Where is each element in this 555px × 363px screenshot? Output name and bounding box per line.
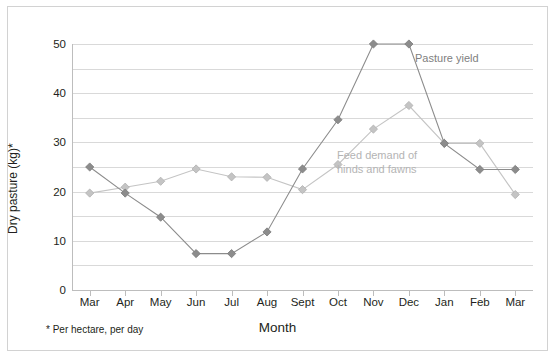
y-axis-tick-label: 30	[26, 136, 66, 148]
x-axis-tick-label: May	[150, 296, 172, 308]
y-axis-tick-label: 50	[26, 38, 66, 50]
series-lines	[72, 44, 533, 294]
data-point-marker	[298, 186, 306, 194]
x-axis-tick-label: Nov	[363, 296, 383, 308]
data-point-marker	[121, 189, 129, 197]
series-line-feed-demand	[90, 106, 516, 195]
data-point-marker	[263, 173, 271, 181]
y-axis-tick-label: 10	[26, 235, 66, 247]
footnote: * Per hectare, per day	[46, 324, 143, 335]
data-point-marker	[476, 139, 484, 147]
data-point-marker	[476, 165, 484, 173]
y-axis-tick-label: 40	[26, 87, 66, 99]
y-axis-tick-labels: 01020304050	[22, 44, 66, 290]
data-point-marker	[157, 177, 165, 185]
data-point-marker	[192, 165, 200, 173]
annotation-feed-demand: Feed demand of hinds and fawns	[337, 148, 417, 176]
data-point-marker	[298, 165, 306, 173]
chart-figure: Dry pasture (kg)* 01020304050 MarAprMayJ…	[0, 0, 555, 363]
plot-area	[72, 44, 533, 290]
annotation-feed-demand-line2: hinds and fawns	[337, 162, 417, 176]
x-axis-tick-label: Aug	[257, 296, 277, 308]
y-axis-title: Dry pasture (kg)*	[6, 216, 20, 234]
data-point-marker	[86, 163, 94, 171]
data-point-marker	[227, 249, 235, 257]
x-axis-tick-labels: MarAprMayJunJulAugSeptOctNovDecJanFebMar	[72, 296, 533, 314]
x-axis-tick-label: Jan	[435, 296, 454, 308]
x-axis-tick-label: Jul	[224, 296, 239, 308]
data-point-marker	[263, 228, 271, 236]
x-axis-tick-label: Sept	[291, 296, 315, 308]
data-point-marker	[86, 189, 94, 197]
annotation-feed-demand-line1: Feed demand of	[337, 148, 417, 162]
x-axis-tick-label: Jun	[187, 296, 206, 308]
series-line-pasture-yield	[90, 44, 516, 254]
x-axis-tick-label: Apr	[116, 296, 134, 308]
data-point-marker	[334, 116, 342, 124]
x-axis-tick-label: Dec	[399, 296, 419, 308]
data-point-marker	[511, 190, 519, 198]
x-axis-tick-label: Feb	[470, 296, 490, 308]
x-axis-tick-label: Mar	[505, 296, 525, 308]
data-point-marker	[511, 165, 519, 173]
annotation-pasture-yield: Pasture yield	[415, 52, 479, 64]
data-point-marker	[227, 173, 235, 181]
x-axis-tick-label: Oct	[329, 296, 347, 308]
x-axis-tick-label: Mar	[80, 296, 100, 308]
y-axis-tick-label: 0	[26, 284, 66, 296]
y-axis-tick-label: 20	[26, 186, 66, 198]
